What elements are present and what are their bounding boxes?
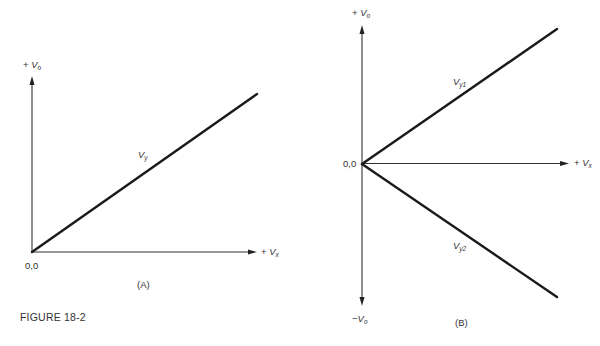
sub: o [364, 318, 368, 325]
sub: o [38, 64, 42, 71]
sign: + [261, 246, 267, 257]
panel-b [360, 25, 570, 306]
panel-b-y-axis-bottom-label: −Vo [352, 314, 368, 326]
panel-b-title: (B) [455, 318, 468, 328]
figure-18-2 [0, 0, 600, 346]
panel-a-title: (A) [137, 280, 150, 290]
sub: x [589, 162, 592, 169]
sub: x [276, 251, 279, 258]
panel-b-origin-label: 0,0 [343, 159, 356, 169]
sign: + [352, 7, 358, 18]
panel-b-y-axis-top-label: + Vo [352, 8, 370, 20]
sub: y [144, 154, 147, 161]
sign: + [574, 157, 580, 168]
sub: y1 [459, 81, 466, 88]
panel-a [30, 76, 258, 255]
sign: + [23, 59, 29, 70]
panel-b-y-axis-up-arrow-icon [360, 25, 365, 34]
sub: o [367, 12, 371, 19]
panel-b-y-axis-down-arrow-icon [360, 297, 365, 306]
panel-a-y-axis-arrow-icon [30, 76, 35, 85]
panel-b-x-axis-label: + Vx [574, 158, 592, 170]
panel-a-x-axis-label: + Vx [261, 247, 279, 259]
panel-a-origin-label: 0,0 [25, 261, 38, 271]
figure-caption: FIGURE 18-2 [20, 312, 86, 323]
panel-a-line-vy [32, 94, 257, 252]
panel-b-line-vy2 [362, 164, 557, 297]
panel-b-line-vy1 [362, 29, 557, 164]
panel-b-x-axis-arrow-icon [560, 161, 569, 166]
panel-a-series-label-vy: Vy [138, 150, 148, 162]
panel-b-series-label-vy2: Vy2 [453, 241, 466, 253]
panel-b-series-label-vy1: Vy1 [453, 77, 466, 89]
panel-a-x-axis-arrow-icon [248, 250, 257, 255]
sub: y2 [459, 245, 466, 252]
panel-a-y-axis-label: + Vo [23, 60, 41, 72]
